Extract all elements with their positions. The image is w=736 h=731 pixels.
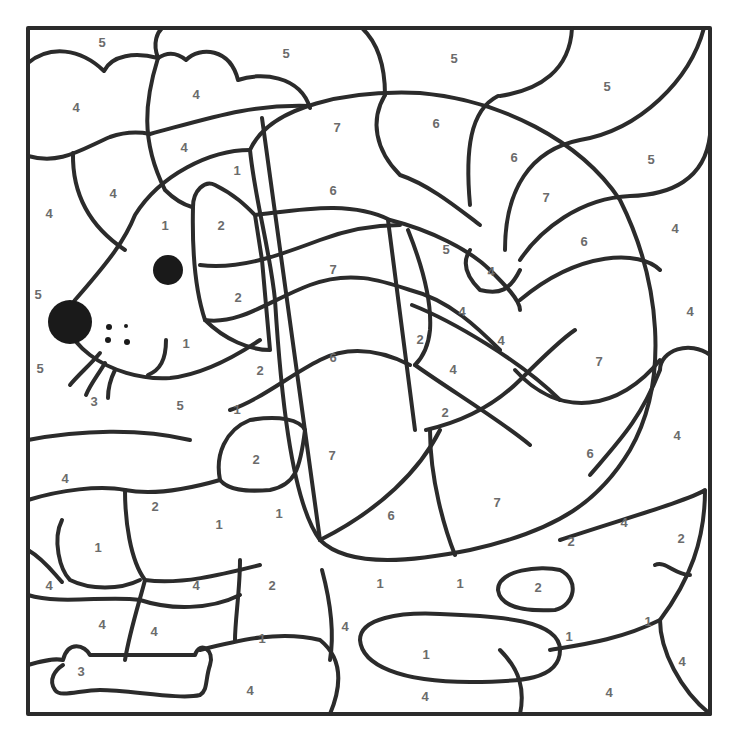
region-number: 1 [275,507,282,520]
whisker [108,370,115,398]
region-number: 4 [180,141,187,154]
region-number: 4 [109,187,116,200]
region-number: 6 [329,184,336,197]
region-number: 4 [458,305,465,318]
swirl-outline [590,348,710,475]
mouse-nose [48,300,92,344]
region-number: 4 [421,690,428,703]
region-number: 4 [678,655,685,668]
swirl-outline [468,96,498,205]
stripe-line [388,220,415,430]
region-number: 2 [677,532,684,545]
cloud-outline [28,28,162,71]
ground-line [200,636,338,714]
region-number: 4 [192,579,199,592]
region-number: 4 [61,472,68,485]
region-number: 1 [233,164,240,177]
region-number: 1 [456,577,463,590]
region-number: 6 [432,117,439,130]
coloring-page: 5555447641665441274547652441246752435124… [0,0,736,731]
region-number: 3 [90,395,97,408]
region-number: 5 [603,80,610,93]
region-number: 4 [605,686,612,699]
region-number: 7 [333,121,340,134]
swirl-outline [362,28,385,95]
stripe-line [520,258,660,300]
mouse-mouth [148,340,166,375]
cloud-outline [73,153,125,250]
region-number: 2 [441,406,448,419]
region-number: 1 [182,337,189,350]
region-number: 1 [215,518,222,531]
stripe-line [230,351,410,410]
ground-line [28,432,190,440]
mouse-tail [550,490,705,650]
swirl-outline [377,95,480,225]
swirl-outline [505,28,704,250]
region-number: 5 [450,52,457,65]
whisker-dot [124,339,130,345]
region-number: 2 [268,579,275,592]
region-number: 4 [686,305,693,318]
region-number: 4 [620,516,627,529]
region-number: 1 [376,577,383,590]
region-number: 4 [150,625,157,638]
region-number: 5 [647,153,654,166]
whisker-dot [106,324,112,330]
region-number: 4 [98,618,105,631]
ground-line [125,580,145,660]
swirl-outline [500,28,572,96]
stripe-line [415,365,530,445]
mouse-foot [360,614,560,682]
region-number: 1 [644,615,651,628]
stripe-line [200,225,400,266]
stripe-line [430,430,455,555]
region-number: 2 [252,453,259,466]
region-number: 5 [36,362,43,375]
region-number: 4 [673,429,680,442]
ground-line [28,595,240,607]
region-number: 4 [497,334,504,347]
line-art [0,0,736,731]
bone [28,646,211,696]
stripe-line [320,430,440,540]
region-number: 4 [449,363,456,376]
region-number: 1 [422,648,429,661]
region-number: 6 [586,447,593,460]
whisker-dot [105,337,111,343]
region-number: 2 [534,581,541,594]
region-number: 4 [192,88,199,101]
region-number: 5 [176,399,183,412]
region-number: 1 [94,541,101,554]
region-number: 6 [580,235,587,248]
region-number: 1 [565,630,572,643]
whisker-dot [124,324,128,328]
region-number: 3 [77,665,84,678]
region-number: 7 [542,191,549,204]
region-number: 4 [72,101,79,114]
region-number: 2 [151,500,158,513]
region-number: 5 [98,36,105,49]
region-number: 2 [416,333,423,346]
region-number: 4 [487,265,494,278]
region-number: 7 [493,496,500,509]
region-number: 6 [387,509,394,522]
mouse-eye [153,255,183,285]
region-number: 1 [161,219,168,232]
stripe-line [412,305,560,400]
mouse-tail [655,564,690,575]
region-number: 4 [341,620,348,633]
region-number: 5 [282,47,289,60]
region-number: 7 [595,355,602,368]
region-number: 4 [45,207,52,220]
region-number: 1 [233,403,240,416]
region-number: 4 [246,684,253,697]
region-number: 5 [442,243,449,256]
region-number: 5 [34,288,41,301]
region-number: 6 [510,151,517,164]
region-number: 7 [328,449,335,462]
stripe-line [205,277,500,350]
region-number: 2 [567,535,574,548]
region-number: 1 [258,632,265,645]
region-number: 2 [234,291,241,304]
